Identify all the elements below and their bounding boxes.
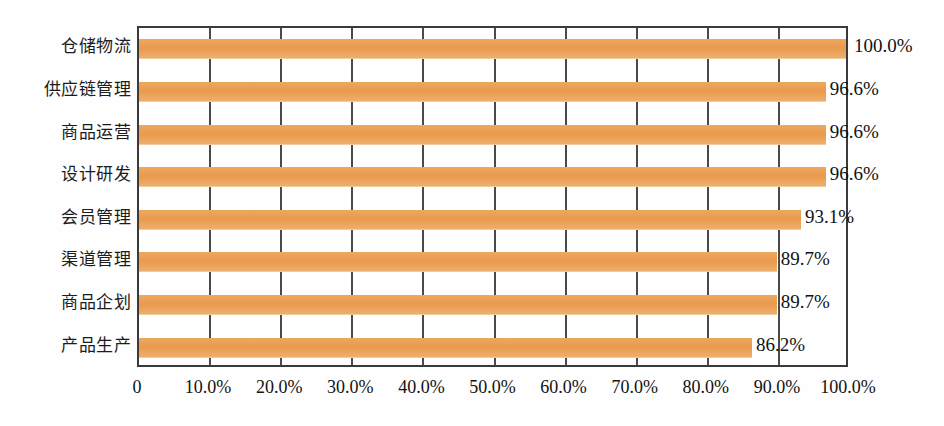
x-tick-label: 30.0% (327, 374, 374, 400)
bar-商品运营 (139, 125, 826, 145)
bar-row (139, 338, 846, 358)
bar-供应链管理 (139, 82, 826, 102)
x-tick-label: 90.0% (754, 374, 801, 400)
x-tick-label: 0 (133, 374, 142, 400)
bars-layer (139, 28, 846, 365)
x-tick-label: 100.0% (820, 374, 876, 400)
x-tick-label: 10.0% (185, 374, 232, 400)
bar-row (139, 167, 846, 187)
x-tick-label: 80.0% (683, 374, 730, 400)
category-label-商品企划: 商品企划 (0, 293, 131, 313)
bar-会员管理 (139, 210, 801, 230)
plot-area (137, 26, 848, 367)
x-tick-label: 40.0% (398, 374, 445, 400)
bar-row (139, 252, 846, 272)
bar-row (139, 210, 846, 230)
category-label-供应链管理: 供应链管理 (0, 80, 131, 100)
x-tick-label: 20.0% (256, 374, 303, 400)
x-axis-tick-labels: 010.0%20.0%30.0%40.0%50.0%60.0%70.0%80.0… (0, 374, 944, 404)
category-label-渠道管理: 渠道管理 (0, 250, 131, 270)
category-label-商品运营: 商品运营 (0, 123, 131, 143)
value-label-仓储物流: 100.0% (854, 36, 913, 56)
category-label-会员管理: 会员管理 (0, 208, 131, 228)
bar-row (139, 295, 846, 315)
bar-渠道管理 (139, 252, 777, 272)
bar-仓储物流 (139, 39, 846, 59)
x-tick-label: 50.0% (469, 374, 516, 400)
category-label-仓储物流: 仓储物流 (0, 37, 131, 57)
bar-row (139, 39, 846, 59)
horizontal-bar-chart: 仓储物流供应链管理商品运营设计研发会员管理渠道管理商品企划产品生产 100.0%… (0, 0, 944, 426)
category-label-设计研发: 设计研发 (0, 165, 131, 185)
x-tick-label: 60.0% (540, 374, 587, 400)
bar-row (139, 125, 846, 145)
x-tick-label: 70.0% (611, 374, 658, 400)
bar-row (139, 82, 846, 102)
bar-设计研发 (139, 167, 826, 187)
bar-商品企划 (139, 295, 777, 315)
bar-产品生产 (139, 338, 752, 358)
category-axis-labels: 仓储物流供应链管理商品运营设计研发会员管理渠道管理商品企划产品生产 (0, 26, 131, 367)
category-label-产品生产: 产品生产 (0, 336, 131, 356)
